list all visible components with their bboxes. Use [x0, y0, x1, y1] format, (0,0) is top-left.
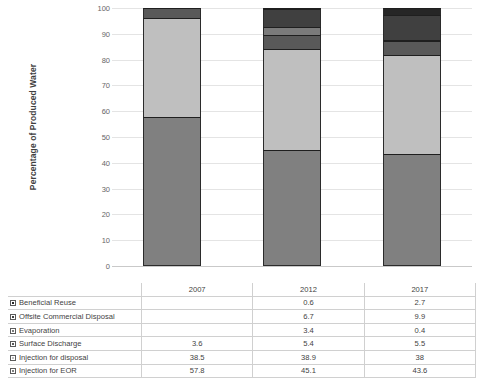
y-tick-label-40: 40 [102, 158, 110, 167]
table-cell-2007: 57.8 [142, 364, 253, 378]
plot-area: Percentage of Produced Water 01020304050… [0, 0, 484, 284]
table-row-label: Surface Discharge [8, 337, 142, 351]
table-row-label: Evaporation [8, 323, 142, 337]
bar-segment-2017-surface-discharge [383, 41, 441, 55]
bar-segment-2017-offsite-commercial-disposal [383, 15, 441, 41]
bar-segment-2017-evaporation [383, 40, 441, 41]
table-row: Surface Discharge3.65.45.5 [8, 337, 476, 351]
series-name: Offsite Commercial Disposal [19, 312, 115, 321]
table-cell-2007 [142, 296, 253, 310]
bar-segment-2007-surface-discharge [143, 8, 201, 17]
table-cell-2007 [142, 310, 253, 324]
y-tick-label-70: 70 [102, 81, 110, 90]
series-name: Injection for EOR [19, 366, 77, 375]
legend-swatch-icon [10, 355, 16, 361]
bar-segment-2017-beneficial-reuse [383, 8, 441, 15]
data-table: 200720122017Beneficial Reuse0.62.7Offsit… [8, 283, 476, 378]
legend-swatch-inner [11, 342, 15, 346]
series-name: Injection for disposal [19, 353, 88, 362]
table-row: Injection for EOR57.845.143.6 [8, 364, 476, 378]
table-cell-2012: 5.4 [253, 337, 364, 351]
legend-swatch-inner [11, 329, 15, 333]
legend-swatch-inner [11, 356, 15, 360]
table-cell-2017: 43.6 [364, 364, 475, 378]
y-axis-tick-labels: 0102030405060708090100 [84, 8, 110, 274]
legend-swatch-icon [10, 368, 16, 374]
legend-swatch-inner [11, 315, 15, 319]
table-cell-2012: 0.6 [253, 296, 364, 310]
legend-swatch-inner [11, 369, 15, 373]
y-tick-label-50: 50 [102, 133, 110, 142]
y-tick-label-10: 10 [102, 236, 110, 245]
table-header-blank [8, 283, 142, 296]
table-cell-2007: 3.6 [142, 337, 253, 351]
series-name: Beneficial Reuse [19, 298, 76, 307]
table-cell-2012: 6.7 [253, 310, 364, 324]
legend-swatch-inner [11, 301, 15, 305]
y-tick-label-80: 80 [102, 55, 110, 64]
bar-segment-2012-beneficial-reuse [263, 8, 321, 10]
bar-segment-2017-injection-for-eor [383, 154, 441, 266]
y-tick-label-20: 20 [102, 210, 110, 219]
table-row: Beneficial Reuse0.62.7 [8, 296, 476, 310]
table-cell-2017: 38 [364, 350, 475, 364]
y-tick-label-0: 0 [106, 262, 110, 271]
y-axis-title: Percentage of Produced Water [28, 42, 38, 212]
series-name: Surface Discharge [19, 339, 81, 348]
y-tick-label-30: 30 [102, 184, 110, 193]
table-row-label: Injection for disposal [8, 350, 142, 364]
table-cell-2012: 38.9 [253, 350, 364, 364]
table-header-2017: 2017 [364, 283, 475, 296]
table-header-2007: 2007 [142, 283, 253, 296]
y-tick-label-60: 60 [102, 107, 110, 116]
table-cell-2017: 2.7 [364, 296, 475, 310]
series-name: Evaporation [19, 326, 60, 335]
bar-2007 [143, 8, 201, 266]
table-header-2012: 2012 [253, 283, 364, 296]
bar-2012 [263, 8, 321, 266]
bar-2017 [383, 8, 441, 266]
table-row: Evaporation3.40.4 [8, 323, 476, 337]
bar-segment-2017-injection-for-disposal [383, 55, 441, 153]
table-row-label: Offsite Commercial Disposal [8, 310, 142, 324]
table-cell-2012: 45.1 [253, 364, 364, 378]
table-cell-2007: 38.5 [142, 350, 253, 364]
bar-segment-2007-injection-for-disposal [143, 18, 201, 117]
legend-swatch-icon [10, 341, 16, 347]
table-row-label: Beneficial Reuse [8, 296, 142, 310]
legend-swatch-icon [10, 328, 16, 334]
bar-segment-2012-offsite-commercial-disposal [263, 9, 321, 26]
bar-segment-2007-injection-for-eor [143, 117, 201, 266]
bar-segment-2012-injection-for-eor [263, 150, 321, 266]
gridline-0 [112, 266, 472, 267]
y-tick-label-100: 100 [97, 4, 110, 13]
table-cell-2007 [142, 323, 253, 337]
bar-segment-2012-surface-discharge [263, 35, 321, 49]
table-row-label: Injection for EOR [8, 364, 142, 378]
table-cell-2017: 0.4 [364, 323, 475, 337]
y-tick-label-90: 90 [102, 29, 110, 38]
legend-swatch-icon [10, 314, 16, 320]
table-header-row: 200720122017 [8, 283, 476, 296]
table-cell-2012: 3.4 [253, 323, 364, 337]
table-cell-2017: 5.5 [364, 337, 475, 351]
bar-segment-2012-injection-for-disposal [263, 49, 321, 149]
table-row: Offsite Commercial Disposal6.79.9 [8, 310, 476, 324]
table-cell-2017: 9.9 [364, 310, 475, 324]
legend-swatch-icon [10, 300, 16, 306]
bar-series-group [112, 8, 472, 266]
table-row: Injection for disposal38.538.938 [8, 350, 476, 364]
bar-segment-2012-evaporation [263, 27, 321, 36]
